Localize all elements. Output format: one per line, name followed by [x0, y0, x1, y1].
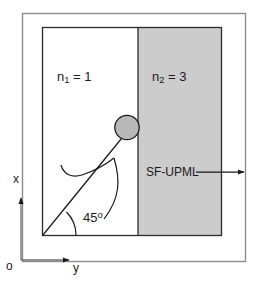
medium-1-equals: = — [69, 69, 84, 84]
medium-2-equals: = — [164, 69, 179, 84]
diagram-svg — [0, 0, 259, 285]
focal-spot-circle — [115, 115, 139, 139]
sfupml-label: SF-UPML — [146, 166, 199, 178]
incidence-angle-label: 45o — [83, 211, 103, 224]
y-axis-label: y — [73, 262, 79, 274]
medium-2-value: 3 — [179, 69, 186, 84]
x-axis-label: x — [13, 173, 19, 185]
medium-1-value: 1 — [84, 69, 91, 84]
degree-symbol: o — [97, 210, 102, 220]
figure-canvas: n1 = 1 n2 = 3 SF-UPML 45o x y o — [0, 0, 259, 285]
incidence-angle-value: 45 — [83, 210, 97, 225]
medium-2-region — [138, 27, 222, 236]
medium-1-label: n1 = 1 — [57, 70, 92, 85]
origin-label: o — [6, 260, 13, 272]
medium-2-label: n2 = 3 — [152, 70, 187, 85]
